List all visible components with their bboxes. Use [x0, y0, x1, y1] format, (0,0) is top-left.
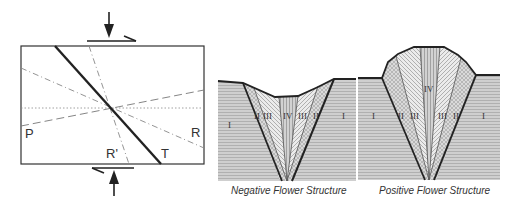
- shear-arrow-right-icon: [87, 36, 136, 41]
- negative-flower-structure: I II III IV III II I Negative Flower Str…: [218, 79, 356, 196]
- zone-label: II: [453, 111, 459, 121]
- zone-label: III: [410, 111, 419, 121]
- zone-label: IV: [283, 111, 293, 121]
- zone-label: III: [263, 111, 272, 121]
- zone-label: III: [438, 111, 447, 121]
- shear-arrow-left-icon: [92, 168, 134, 173]
- label-p: P: [25, 126, 34, 141]
- zone-label: II: [254, 111, 260, 121]
- label-r-prime: R': [106, 146, 118, 161]
- diagram-canvas: P R R' T: [0, 0, 514, 206]
- zone-label: II: [313, 111, 319, 121]
- label-r: R: [191, 125, 200, 140]
- positive-flower-caption: Positive Flower Structure: [379, 185, 491, 196]
- strain-ellipse-diagram: P R R' T: [21, 12, 204, 196]
- zone-label: II: [398, 111, 404, 121]
- zone-label: I: [372, 111, 375, 121]
- zone-label: III: [298, 111, 307, 121]
- zone-label: I: [228, 120, 231, 130]
- negative-flower-caption: Negative Flower Structure: [231, 185, 347, 196]
- zone-label: IV: [424, 84, 434, 94]
- label-t: T: [161, 146, 169, 161]
- positive-flower-structure: I II III IV III II I Positive Flower Str…: [358, 47, 500, 196]
- zone-label: I: [342, 111, 345, 121]
- compression-arrow-up-icon: [109, 170, 119, 196]
- zone-label: I: [482, 111, 485, 121]
- compression-arrow-down-icon: [104, 12, 114, 38]
